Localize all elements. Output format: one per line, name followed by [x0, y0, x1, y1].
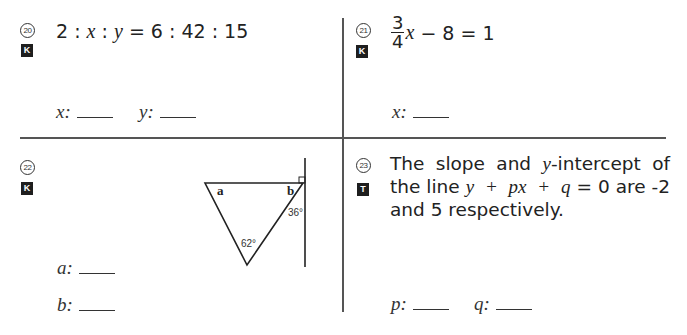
- answer-x-field[interactable]: x:: [392, 101, 449, 123]
- answer-a-field[interactable]: a:: [57, 257, 115, 279]
- answer-x-field[interactable]: x:: [56, 101, 113, 123]
- question-number-20: 20: [20, 23, 35, 38]
- question-number-22: 22: [20, 160, 35, 175]
- fraction: 34: [391, 14, 404, 51]
- variable-y: y: [114, 20, 123, 42]
- answer-q-field[interactable]: q:: [474, 293, 532, 315]
- answer-blank[interactable]: [79, 309, 115, 311]
- variable-y: y: [542, 153, 550, 174]
- answer-label: x:: [56, 101, 71, 122]
- fraction-denominator: 4: [391, 33, 404, 51]
- question-23-text: The slope and y-intercept of the line y …: [390, 152, 670, 221]
- question-number-23: 23: [356, 158, 371, 173]
- answer-blank[interactable]: [413, 308, 449, 310]
- answer-label: p:: [391, 293, 407, 314]
- answer-b-field[interactable]: b:: [57, 294, 115, 316]
- equation-part: :: [95, 20, 113, 42]
- line-expression: y + px + q: [466, 176, 571, 197]
- equation-part: − 8 = 1: [414, 22, 494, 44]
- difficulty-badge: T: [357, 183, 369, 196]
- answer-label: a:: [57, 257, 73, 278]
- equation-part: 2 :: [56, 20, 87, 42]
- difficulty-badge: K: [356, 45, 368, 58]
- answer-y-field[interactable]: y:: [139, 101, 196, 123]
- angle-label-b: b: [287, 183, 294, 199]
- answer-blank[interactable]: [496, 308, 532, 310]
- answer-blank[interactable]: [160, 116, 196, 118]
- answer-label: q:: [474, 293, 490, 314]
- answer-blank[interactable]: [79, 272, 115, 274]
- equation-part: = 6 : 42 : 15: [123, 20, 248, 42]
- angle-label-a: a: [217, 183, 224, 199]
- answer-blank[interactable]: [413, 116, 449, 118]
- vertical-divider: [342, 18, 344, 312]
- difficulty-badge: K: [21, 182, 33, 195]
- difficulty-badge: K: [21, 44, 33, 57]
- answer-label: b:: [57, 294, 73, 315]
- question-number-21: 21: [356, 23, 371, 38]
- answer-blank[interactable]: [77, 116, 113, 118]
- text-part: The slope and: [390, 153, 542, 174]
- equation-20: 2 : x : y = 6 : 42 : 15: [56, 20, 248, 43]
- answer-p-field[interactable]: p:: [391, 293, 449, 315]
- equation-21: 34x − 8 = 1: [391, 14, 495, 51]
- angle-value-right: 36°: [288, 207, 303, 218]
- answer-label: y:: [139, 101, 154, 122]
- angle-value-bottom: 62°: [241, 238, 256, 249]
- variable-x: x: [405, 21, 414, 43]
- answer-label: x:: [392, 101, 407, 122]
